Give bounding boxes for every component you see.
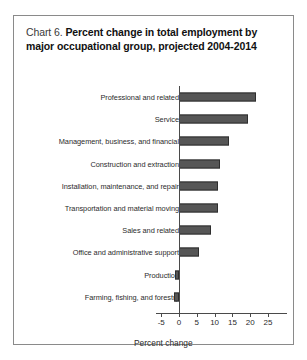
chart-bar [179, 137, 229, 146]
category-label: Office and administrative support [73, 248, 179, 257]
chart-title-prefix: Chart 6. [26, 26, 63, 38]
chart-category-row: Service [14, 108, 295, 130]
x-tick-mark [232, 313, 233, 317]
category-label: Installation, maintenance, and repair [62, 181, 179, 190]
chart-category-row: Transportation and material moving [14, 197, 295, 219]
category-label: Management, business, and financial [59, 137, 179, 146]
chart-bar [179, 181, 218, 190]
chart-bar [179, 204, 218, 213]
chart-category-row: Farming, fishing, and forestry [14, 286, 295, 308]
category-label: Transportation and material moving [65, 204, 179, 213]
category-label: Sales and related [122, 226, 179, 235]
chart-title: Chart 6. Percent change in total employm… [26, 25, 284, 53]
zero-axis-line [179, 86, 180, 313]
x-tick-mark [268, 313, 269, 317]
x-tick-mark [197, 313, 198, 317]
x-tick-label: 5 [195, 318, 199, 327]
x-tick-label: 25 [264, 318, 273, 327]
chart-category-row: Construction and extraction [14, 153, 295, 175]
chart-category-row: Sales and related [14, 219, 295, 241]
x-tick-label: 15 [228, 318, 237, 327]
plot-area: Professional and relatedServiceManagemen… [14, 86, 295, 311]
x-tick-mark [161, 313, 162, 317]
category-label: Construction and extraction [90, 159, 179, 168]
chart-category-row: Management, business, and financial [14, 130, 295, 152]
x-axis-title: Percent change [134, 338, 193, 348]
x-tick-label: 10 [210, 318, 219, 327]
x-tick-mark [250, 313, 251, 317]
category-label: Farming, fishing, and forestry [85, 292, 179, 301]
chart-category-row: Production [14, 264, 295, 286]
x-tick-mark [215, 313, 216, 317]
chart-frame: Chart 6. Percent change in total employm… [13, 15, 294, 345]
category-label: Service [155, 115, 179, 124]
chart-category-row: Professional and related [14, 86, 295, 108]
chart-bar [179, 248, 199, 257]
chart-category-row: Installation, maintenance, and repair [14, 175, 295, 197]
chart-bar [179, 93, 256, 102]
x-tick-label: 0 [177, 318, 181, 327]
category-label: Production [144, 270, 179, 279]
chart-bar [179, 226, 211, 235]
category-label: Professional and related [100, 93, 179, 102]
chart-bar [179, 159, 220, 168]
x-tick-label: 20 [246, 318, 255, 327]
chart-bar [179, 115, 248, 124]
chart-category-row: Office and administrative support [14, 241, 295, 263]
x-tick-label: -5 [158, 318, 165, 327]
x-tick-mark [179, 313, 180, 317]
